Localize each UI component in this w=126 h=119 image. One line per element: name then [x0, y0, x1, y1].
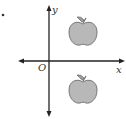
x-axis [18, 59, 125, 64]
y-axis-label: y [52, 5, 58, 15]
apple-icon [69, 17, 97, 45]
bullet-dot [2, 14, 5, 17]
y-axis-up-arrow-icon [47, 5, 52, 11]
coordinate-plane [0, 0, 126, 119]
origin-label: O [38, 63, 46, 73]
diagram-canvas: y x O [0, 0, 126, 119]
y-axis-down-arrow-icon [47, 111, 52, 117]
apple-icon [69, 75, 97, 103]
x-axis-right-arrow-icon [119, 59, 125, 64]
x-axis-label: x [116, 65, 122, 75]
x-axis-left-arrow-icon [18, 59, 24, 64]
